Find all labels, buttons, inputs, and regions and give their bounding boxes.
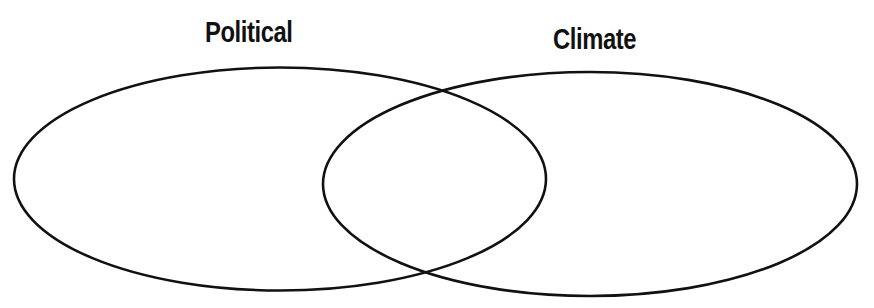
climate-ellipse (323, 72, 857, 296)
venn-circles (0, 0, 874, 308)
political-label: Political (205, 18, 292, 47)
political-ellipse (14, 68, 546, 291)
climate-label: Climate (553, 25, 636, 54)
venn-diagram: Political Climate (0, 0, 874, 308)
